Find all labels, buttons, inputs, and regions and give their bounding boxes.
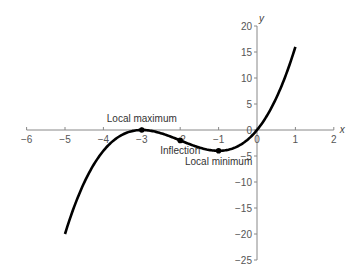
ticks: −6−5−4−3−2−101220151050−5−10−15−20−25 [21, 21, 337, 266]
annotation-label: Inflection [160, 145, 200, 156]
annotation-label: Local minimum [185, 156, 252, 167]
x-tick-label: −3 [136, 134, 148, 145]
x-axis-label: x [339, 124, 346, 135]
y-tick-label: −15 [235, 203, 252, 214]
x-tick-label: −1 [213, 134, 225, 145]
x-tick-label: 2 [331, 134, 337, 145]
x-tick-label: 1 [293, 134, 299, 145]
x-tick-label: −5 [59, 134, 71, 145]
chart: −6−5−4−3−2−101220151050−5−10−15−20−25 Lo… [0, 0, 364, 278]
y-tick-label: −25 [235, 255, 252, 266]
point-marker [139, 127, 145, 133]
annotation-label: Local maximum [107, 113, 177, 124]
y-tick-label: 15 [241, 47, 253, 58]
y-tick-label: 5 [246, 99, 252, 110]
y-tick-label: −20 [235, 229, 252, 240]
y-axis-label: y [258, 13, 265, 24]
y-tick-label: 0 [246, 125, 252, 136]
y-tick-label: −10 [235, 177, 252, 188]
x-tick-label: −6 [21, 134, 33, 145]
x-tick-label: 0 [254, 134, 260, 145]
point-marker [177, 138, 183, 144]
x-tick-label: −4 [98, 134, 110, 145]
y-tick-label: 20 [241, 21, 253, 32]
point-marker [216, 148, 222, 154]
y-tick-label: 10 [241, 73, 253, 84]
